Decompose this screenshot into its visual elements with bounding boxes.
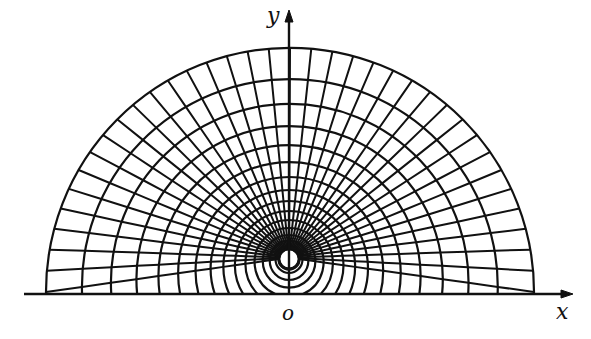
curvilinear-grid-figure [0, 0, 591, 339]
origin-label: o [282, 303, 294, 323]
x-axis-label: x [556, 301, 568, 323]
y-axis-label: y [267, 5, 279, 27]
grid-spoke [117, 119, 281, 251]
y-axis-arrow-icon [285, 10, 293, 22]
x-axis-arrow-icon [561, 290, 573, 298]
